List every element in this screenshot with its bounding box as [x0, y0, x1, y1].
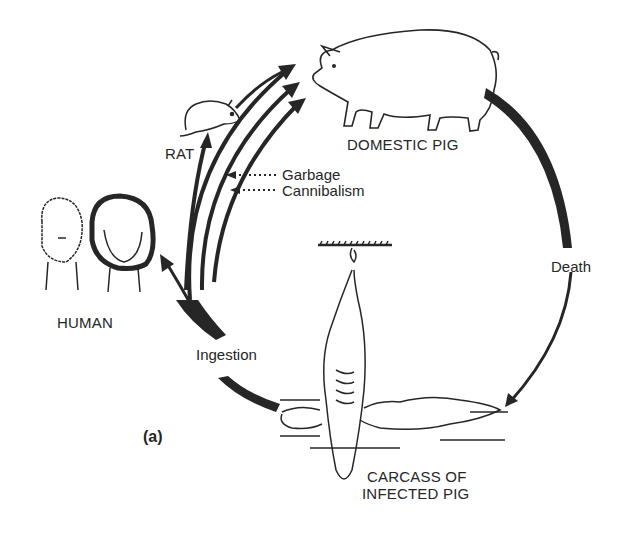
human-label: HUMAN: [57, 314, 113, 331]
domestic-pig-illustration: [313, 30, 499, 131]
carcass-label-line1: CARCASS OF: [367, 468, 467, 485]
garbage-pointer: [226, 171, 276, 179]
life-cycle-artwork: [0, 0, 632, 535]
carcass-label-line2: INFECTED PIG: [362, 485, 469, 502]
human-illustration: [42, 196, 153, 292]
rat-label: RAT: [165, 145, 195, 162]
death-label: Death: [551, 258, 591, 275]
ingestion-label: Ingestion: [196, 346, 257, 363]
cannibalism-label: Cannibalism: [282, 182, 365, 199]
domestic-pig-label: DOMESTIC PIG: [347, 136, 459, 153]
panel-label: (a): [143, 428, 163, 446]
death-arrow: [484, 88, 572, 407]
garbage-label: Garbage: [282, 166, 340, 183]
carcass-illustration: [280, 241, 508, 479]
arrowheads-to-pig: [278, 64, 306, 114]
